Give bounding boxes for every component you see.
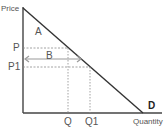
price-p-label: P [13, 43, 20, 53]
double-arrow-icon [25, 56, 81, 62]
region-a-label: A [35, 27, 42, 37]
quantity-q-label: Q [64, 117, 72, 127]
price-p1-label: P1 [8, 62, 20, 72]
region-b-label: B [46, 51, 53, 61]
x-axis-label: Quantity [133, 118, 163, 126]
y-axis-label: Price [1, 5, 19, 13]
demand-diagram [0, 0, 166, 133]
demand-curve-label: D [148, 101, 155, 111]
demand-curve [23, 8, 143, 113]
quantity-q1-label: Q1 [85, 117, 98, 127]
